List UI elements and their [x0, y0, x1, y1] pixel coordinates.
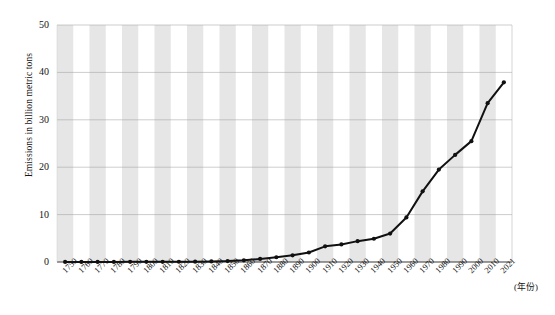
vertical-band	[57, 25, 73, 262]
y-tick-label: 10	[23, 210, 49, 220]
vertical-band	[252, 25, 268, 262]
vertical-band	[90, 25, 106, 262]
y-tick-label: 20	[23, 162, 49, 172]
vertical-band	[415, 25, 431, 262]
vertical-band	[317, 25, 333, 262]
y-tick-label: 30	[23, 115, 49, 125]
data-point	[404, 215, 408, 219]
emissions-line-chart: Emissions in billion metric tons 0102030…	[0, 0, 555, 315]
y-tick-label: 0	[23, 257, 49, 267]
vertical-band	[220, 25, 236, 262]
vertical-band	[187, 25, 203, 262]
vertical-band	[480, 25, 496, 262]
data-point	[356, 239, 360, 243]
data-point	[372, 237, 376, 241]
data-point	[453, 153, 457, 157]
data-point	[274, 255, 278, 259]
vertical-band	[350, 25, 366, 262]
data-point	[502, 80, 506, 84]
data-point	[437, 167, 441, 171]
data-point	[486, 101, 490, 105]
vertical-band	[122, 25, 138, 262]
data-point	[388, 231, 392, 235]
vertical-band	[155, 25, 171, 262]
vertical-band	[285, 25, 301, 262]
vertical-band-group	[57, 25, 496, 262]
y-tick-label: 50	[23, 20, 49, 30]
x-axis-unit-label: (年份)	[514, 280, 538, 293]
y-tick-label: 40	[23, 67, 49, 77]
vertical-band	[447, 25, 463, 262]
data-point	[469, 139, 473, 143]
data-point	[323, 244, 327, 248]
data-point	[421, 189, 425, 193]
data-point	[307, 250, 311, 254]
vertical-band	[382, 25, 398, 262]
data-point	[339, 242, 343, 246]
data-point	[291, 253, 295, 257]
